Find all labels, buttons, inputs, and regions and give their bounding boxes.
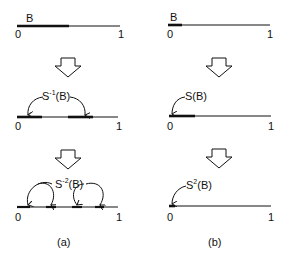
curved-arrow-right bbox=[70, 97, 85, 115]
left-tick-label: 0 bbox=[167, 28, 173, 40]
preimage-2-label: S-2(B) bbox=[55, 177, 83, 190]
down-arrow-icon bbox=[206, 58, 232, 77]
curved-arrow-left bbox=[28, 97, 43, 115]
caption-b: (b) bbox=[208, 236, 221, 248]
image-2-label: S2(B) bbox=[186, 178, 212, 191]
panel-b-row-1: B 0 1 bbox=[167, 11, 273, 40]
preimage-label: S-1(B) bbox=[42, 89, 70, 102]
panel-a-row-2: S-1(B) 0 1 bbox=[15, 89, 122, 132]
curved-arrow bbox=[38, 183, 54, 205]
left-tick-label: 0 bbox=[167, 120, 173, 132]
panel-a: B 0 1 S-1(B) 0 1 bbox=[15, 12, 124, 248]
panel-b: B 0 1 S(B) 0 1 S2(B) 0 1 (b) bbox=[167, 11, 274, 248]
image-label: S(B) bbox=[185, 90, 207, 102]
set-b-label: B bbox=[170, 11, 177, 23]
curved-arrow bbox=[86, 183, 103, 205]
left-tick-label: 0 bbox=[15, 120, 21, 132]
right-tick-label: 1 bbox=[267, 28, 273, 40]
panel-b-row-3: S2(B) 0 1 bbox=[167, 178, 274, 223]
right-tick-label: 1 bbox=[268, 120, 274, 132]
right-tick-label: 1 bbox=[118, 28, 124, 40]
right-tick-label: 1 bbox=[116, 120, 122, 132]
dynamics-diagram: B 0 1 S-1(B) 0 1 bbox=[0, 0, 286, 257]
caption-a: (a) bbox=[57, 236, 70, 248]
set-b-label: B bbox=[26, 12, 33, 24]
down-arrow-icon bbox=[55, 150, 81, 169]
left-tick-label: 0 bbox=[167, 211, 173, 223]
curved-arrow bbox=[172, 97, 185, 114]
down-arrow-icon bbox=[206, 149, 232, 168]
down-arrow-icon bbox=[55, 58, 81, 77]
right-tick-label: 1 bbox=[268, 211, 274, 223]
curved-arrow bbox=[27, 182, 52, 205]
panel-b-row-2: S(B) 0 1 bbox=[167, 90, 274, 132]
left-tick-label: 0 bbox=[15, 28, 21, 40]
curved-arrow bbox=[172, 186, 186, 204]
left-tick-label: 0 bbox=[15, 211, 21, 223]
right-tick-label: 1 bbox=[116, 211, 122, 223]
panel-a-row-3: S-2(B) 0 1 bbox=[15, 177, 122, 223]
panel-a-row-1: B 0 1 bbox=[15, 12, 124, 40]
